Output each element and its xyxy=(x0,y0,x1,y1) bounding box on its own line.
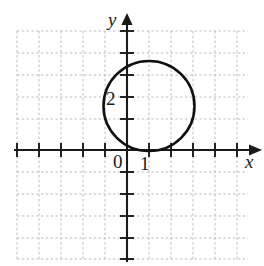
origin-tick-label: 0 xyxy=(113,152,123,171)
graph-figure: y x 0 1 2 xyxy=(0,0,264,266)
y-tick-label-2: 2 xyxy=(106,89,116,108)
y-axis-label: y xyxy=(108,10,116,29)
x-axis-label: x xyxy=(245,152,253,171)
coordinate-plane xyxy=(0,0,264,266)
y-axis xyxy=(121,13,132,262)
x-tick-label-1: 1 xyxy=(140,154,150,173)
